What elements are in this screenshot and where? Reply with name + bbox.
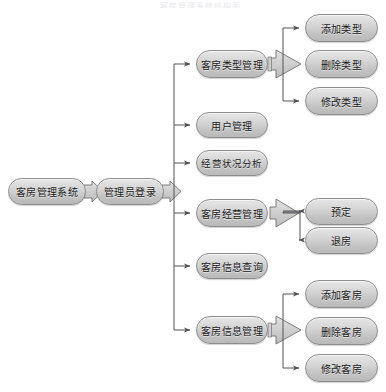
node-room-info-query[interactable]: 客房信息查询 xyxy=(196,253,268,279)
diagram-canvas: 客房管理系统结构图 xyxy=(0,0,386,392)
node-root[interactable]: 客房管理系统 xyxy=(8,178,86,205)
node-add-type-label: 添加类型 xyxy=(321,21,363,36)
connector-login-to-trunk xyxy=(162,181,181,202)
connector-roominfo-group xyxy=(268,294,301,368)
node-user-management[interactable]: 用户管理 xyxy=(196,112,268,138)
connector-roomtype-group xyxy=(268,28,301,101)
trunk-lines xyxy=(174,64,190,330)
node-delete-room[interactable]: 删除客房 xyxy=(305,317,378,345)
node-room-type-management[interactable]: 客房类型管理 xyxy=(196,50,268,78)
node-checkout-label: 退房 xyxy=(331,233,352,248)
node-modify-room[interactable]: 修改客房 xyxy=(305,354,378,382)
node-reserve[interactable]: 预定 xyxy=(305,198,378,225)
node-add-room-label: 添加客房 xyxy=(321,287,363,302)
node-add-type[interactable]: 添加类型 xyxy=(305,14,378,42)
node-admin-login[interactable]: 管理员登录 xyxy=(96,178,164,205)
node-checkout[interactable]: 退房 xyxy=(305,227,378,254)
node-admin-login-label: 管理员登录 xyxy=(104,184,156,199)
node-business-analysis[interactable]: 经营状况分析 xyxy=(196,150,268,176)
node-reserve-label: 预定 xyxy=(331,204,352,219)
connector-roombiz-group xyxy=(270,199,300,240)
node-delete-room-label: 删除客房 xyxy=(321,324,363,339)
node-modify-type[interactable]: 修改类型 xyxy=(305,87,378,115)
node-add-room[interactable]: 添加客房 xyxy=(305,280,378,308)
node-delete-type[interactable]: 删除类型 xyxy=(305,50,378,78)
node-user-management-label: 用户管理 xyxy=(211,118,253,133)
node-modify-room-label: 修改客房 xyxy=(321,361,363,376)
node-business-analysis-label: 经营状况分析 xyxy=(201,156,262,170)
node-room-info-query-label: 客房信息查询 xyxy=(201,259,263,274)
node-room-business-management-label: 客房经营管理 xyxy=(201,206,263,221)
node-room-type-management-label: 客房类型管理 xyxy=(201,57,263,72)
node-room-info-management[interactable]: 客房信息管理 xyxy=(196,316,268,344)
node-root-label: 客房管理系统 xyxy=(16,184,78,199)
node-modify-type-label: 修改类型 xyxy=(321,94,363,109)
node-room-business-management[interactable]: 客房经营管理 xyxy=(196,199,268,227)
node-room-info-management-label: 客房信息管理 xyxy=(201,323,263,338)
node-delete-type-label: 删除类型 xyxy=(321,57,363,72)
